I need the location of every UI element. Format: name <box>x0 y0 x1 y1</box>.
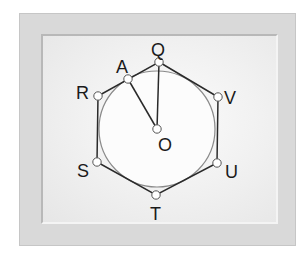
point-r <box>94 92 102 100</box>
label-r: R <box>76 83 89 103</box>
point-o <box>153 125 161 133</box>
label-v: V <box>224 88 236 108</box>
label-a: A <box>116 57 128 77</box>
label-t: T <box>150 204 161 224</box>
point-t <box>152 191 160 199</box>
label-s: S <box>77 161 89 181</box>
hexagon-diagram: Q A R V O S U T <box>0 0 306 255</box>
label-q: Q <box>151 40 165 60</box>
point-v <box>214 93 222 101</box>
label-o: O <box>158 135 172 155</box>
point-s <box>93 158 101 166</box>
label-u: U <box>225 162 238 182</box>
point-u <box>213 159 221 167</box>
